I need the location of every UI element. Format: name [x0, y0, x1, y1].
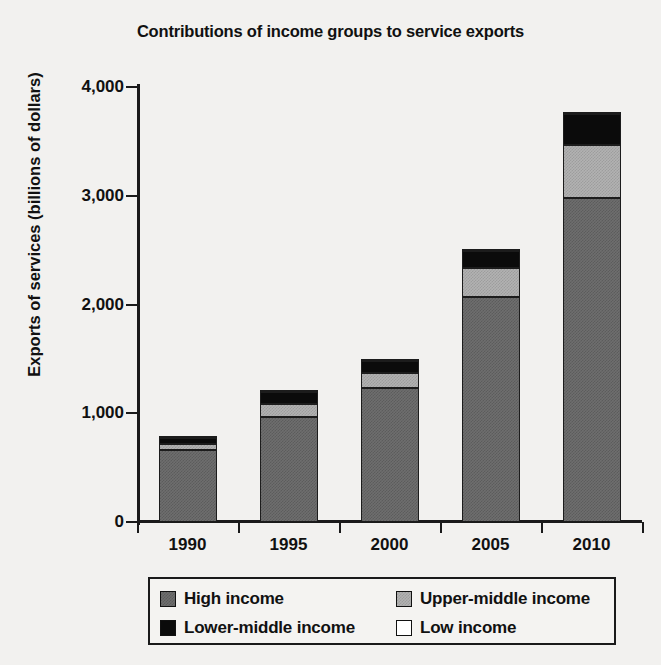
x-tick-label: 2010 — [547, 535, 637, 555]
bar-segment-low-income[interactable] — [563, 112, 621, 114]
legend-label-lower-middle-income: Lower-middle income — [184, 618, 355, 638]
chart-figure: Contributions of income groups to servic… — [0, 0, 661, 665]
legend-swatch-lower-middle-income-icon — [160, 620, 176, 636]
bar-1995[interactable] — [260, 87, 318, 522]
bar-segment-low-income[interactable] — [462, 249, 520, 251]
x-tick-label: 2005 — [446, 535, 536, 555]
bar-segment-upper-middle-income[interactable] — [159, 444, 217, 449]
legend-item-low-income[interactable]: Low income — [396, 618, 516, 638]
bar-segment-lower-middle-income[interactable] — [563, 114, 621, 145]
bar-segment-high-income[interactable] — [361, 388, 419, 522]
x-tick-mark — [238, 522, 240, 533]
bar-2000[interactable] — [361, 87, 419, 522]
legend-item-high-income[interactable]: High income — [160, 589, 396, 609]
bar-segment-lower-middle-income[interactable] — [361, 361, 419, 373]
legend-label-high-income: High income — [184, 589, 284, 609]
x-tick-mark — [137, 522, 139, 533]
bar-segment-high-income[interactable] — [563, 198, 621, 522]
legend-row: High income Upper-middle income — [160, 584, 604, 613]
x-tick-label: 2000 — [345, 535, 435, 555]
bar-segment-high-income[interactable] — [260, 417, 318, 522]
legend-item-upper-middle-income[interactable]: Upper-middle income — [396, 589, 590, 609]
bar-segment-upper-middle-income[interactable] — [361, 373, 419, 388]
bar-segment-lower-middle-income[interactable] — [260, 392, 318, 404]
x-tick-label: 1990 — [143, 535, 233, 555]
bar-2010[interactable] — [563, 87, 621, 522]
legend-swatch-low-income-icon — [396, 620, 412, 636]
bar-segment-high-income[interactable] — [462, 297, 520, 522]
bar-segment-low-income[interactable] — [159, 436, 217, 438]
bar-segment-lower-middle-income[interactable] — [159, 438, 217, 445]
x-tick-mark — [642, 522, 644, 533]
plot-area — [137, 87, 642, 522]
bar-segment-low-income[interactable] — [361, 359, 419, 361]
y-tick-label: 2,000 — [44, 295, 124, 315]
legend-swatch-high-income-icon — [160, 591, 176, 607]
chart-title: Contributions of income groups to servic… — [0, 22, 661, 41]
y-tick-label: 4,000 — [44, 77, 124, 97]
legend-row: Lower-middle income Low income — [160, 613, 604, 642]
y-tick-label: 3,000 — [44, 186, 124, 206]
y-tick-label: 0 — [44, 512, 124, 532]
bar-segment-upper-middle-income[interactable] — [563, 145, 621, 198]
bar-segment-lower-middle-income[interactable] — [462, 251, 520, 268]
legend-swatch-upper-middle-income-icon — [396, 591, 412, 607]
bar-2005[interactable] — [462, 87, 520, 522]
x-tick-label: 1995 — [244, 535, 334, 555]
x-tick-mark — [339, 522, 341, 533]
y-axis-title: Exports of services (billions of dollars… — [25, 15, 44, 435]
bar-segment-upper-middle-income[interactable] — [462, 268, 520, 297]
legend-label-low-income: Low income — [420, 618, 516, 638]
bar-segment-low-income[interactable] — [260, 390, 318, 392]
x-tick-mark — [440, 522, 442, 533]
bar-segment-high-income[interactable] — [159, 450, 217, 522]
chart-legend: High income Upper-middle income Lower-mi… — [148, 577, 616, 645]
legend-label-upper-middle-income: Upper-middle income — [420, 589, 590, 609]
x-tick-mark — [541, 522, 543, 533]
legend-item-lower-middle-income[interactable]: Lower-middle income — [160, 618, 396, 638]
y-tick-label: 1,000 — [44, 403, 124, 423]
bar-segment-upper-middle-income[interactable] — [260, 404, 318, 417]
bar-1990[interactable] — [159, 87, 217, 522]
